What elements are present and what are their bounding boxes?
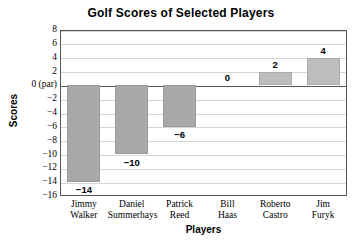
bar[interactable] (163, 85, 196, 127)
y-tick-label: −6 (1, 121, 57, 131)
y-tick-label: −16 (1, 190, 57, 200)
y-tick-label: 2 (1, 66, 57, 76)
x-axis-title: Players (60, 224, 347, 235)
x-tick-label-line: Patrick (156, 199, 204, 210)
x-axis-tick-labels: JimmyWalkerDanielSummerhaysPatrickReedBi… (60, 199, 347, 223)
y-tick-label: −2 (1, 93, 57, 103)
x-tick-label-line: Haas (204, 210, 252, 221)
chart-title: Golf Scores of Selected Players (0, 6, 362, 20)
x-tick-label: JimFuryk (299, 199, 347, 221)
bar-slot: −14 (60, 30, 108, 196)
y-tick-label: −14 (1, 176, 57, 186)
bar-value-label: −6 (156, 129, 204, 140)
bar-slot: 2 (251, 30, 299, 196)
y-axis-tick-labels: 86420 (par)−2−4−6−8−10−12−14−16 (0, 30, 57, 196)
bar-value-label: −10 (108, 157, 156, 168)
bar-slot: 4 (299, 30, 347, 196)
bars-layer: −14−10−6024 (60, 30, 347, 196)
x-tick-label-line: Bill (204, 199, 252, 210)
x-tick-label-line: Daniel (108, 199, 156, 210)
x-tick-label-line: Summerhays (108, 210, 156, 221)
bar-slot: 0 (204, 30, 252, 196)
x-tick-label: DanielSummerhays (108, 199, 156, 221)
x-tick-label-line: Jimmy (60, 199, 108, 210)
x-tick-label-line: Jim (299, 199, 347, 210)
bar-value-label: 2 (251, 59, 299, 70)
bar-slot: −10 (108, 30, 156, 196)
bar[interactable] (259, 72, 292, 86)
y-tick-label: 4 (1, 52, 57, 62)
bar-value-label: 4 (299, 45, 347, 56)
x-tick-label: BillHaas (204, 199, 252, 221)
x-tick-label: RobertoCastro (251, 199, 299, 221)
x-tick-label: PatrickReed (156, 199, 204, 221)
x-tick-label: JimmyWalker (60, 199, 108, 221)
x-tick-label-line: Roberto (251, 199, 299, 210)
x-tick-label-line: Walker (60, 210, 108, 221)
y-tick-label: 0 (par) (1, 79, 57, 89)
bar-value-label: 0 (204, 72, 252, 83)
x-tick-label-line: Castro (251, 210, 299, 221)
bar-value-label: −14 (60, 184, 108, 195)
bar-slot: −6 (156, 30, 204, 196)
bar[interactable] (307, 58, 340, 86)
bar[interactable] (115, 85, 148, 154)
y-tick-label: −12 (1, 162, 57, 172)
bar-chart: Golf Scores of Selected Players Scores 8… (0, 0, 362, 246)
y-tick-label: 8 (1, 24, 57, 34)
y-tick-label: −4 (1, 107, 57, 117)
x-tick-label-line: Reed (156, 210, 204, 221)
bar[interactable] (67, 85, 100, 182)
y-tick-label: 6 (1, 38, 57, 48)
x-tick-label-line: Furyk (299, 210, 347, 221)
y-tick-label: −10 (1, 149, 57, 159)
y-tick-label: −8 (1, 135, 57, 145)
